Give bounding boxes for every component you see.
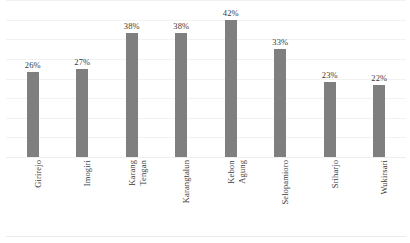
bar-slot: 26%: [8, 0, 58, 157]
category-label: Imogiri: [82, 160, 93, 186]
bar-value-label: 23%: [322, 70, 338, 80]
category-label-line: Wukirsari: [379, 160, 390, 195]
category-label-line: Selopamioro: [280, 160, 291, 205]
category-label-line: Agung: [236, 160, 247, 184]
bar-value-label: 26%: [25, 60, 41, 70]
bar[interactable]: [27, 72, 39, 157]
bar-value-label: 42%: [223, 8, 239, 18]
category-label-slot: KebonAgung: [206, 158, 256, 243]
category-label-line: Karangtalun: [181, 160, 192, 203]
category-label: Sriharjo: [330, 160, 341, 188]
category-label-slot: Sriharjo: [305, 158, 355, 243]
category-label: Wukirsari: [379, 160, 390, 195]
bar[interactable]: [373, 85, 385, 157]
bar-value-label: 38%: [124, 21, 140, 31]
category-label-slot: Imogiri: [58, 158, 108, 243]
bar[interactable]: [324, 82, 336, 157]
bar-slot: 33%: [256, 0, 306, 157]
bar[interactable]: [126, 33, 138, 157]
category-label-line: Sriharjo: [330, 160, 341, 188]
category-label-line: Kebon: [226, 160, 237, 184]
category-label-line: Imogiri: [82, 160, 93, 186]
bar-slot: 38%: [157, 0, 207, 157]
category-label-slot: KarangTengan: [107, 158, 157, 243]
bar-slot: 22%: [355, 0, 405, 157]
category-axis: GirirejoImogiriKarangTenganKarangtalunKe…: [0, 158, 410, 243]
category-label-line: Tengan: [137, 160, 148, 186]
category-label: KarangTengan: [127, 160, 148, 186]
bar-chart: 26%27%38%38%42%33%23%22% GirirejoImogiri…: [0, 0, 410, 243]
category-label: Selopamioro: [280, 160, 291, 205]
axis-bottom-rule: [6, 236, 406, 237]
bar-value-label: 27%: [74, 57, 90, 67]
category-label: Karangtalun: [181, 160, 192, 203]
category-label: Girirejo: [33, 160, 44, 188]
bar[interactable]: [225, 20, 237, 157]
category-label: KebonAgung: [226, 160, 247, 184]
bar-value-label: 33%: [272, 37, 288, 47]
bar-value-label: 22%: [371, 73, 387, 83]
bar[interactable]: [274, 49, 286, 157]
plot-area: 26%27%38%38%42%33%23%22%: [0, 0, 410, 157]
bar[interactable]: [175, 33, 187, 157]
bar-value-label: 38%: [173, 21, 189, 31]
category-label-slot: Selopamioro: [256, 158, 306, 243]
category-label-slot: Karangtalun: [157, 158, 207, 243]
category-label-line: Karang: [127, 160, 138, 186]
bar[interactable]: [76, 69, 88, 157]
category-label-slot: Wukirsari: [355, 158, 405, 243]
bar-slot: 42%: [206, 0, 256, 157]
category-label-line: Girirejo: [33, 160, 44, 188]
bar-slot: 38%: [107, 0, 157, 157]
category-label-slot: Girirejo: [8, 158, 58, 243]
bar-slot: 27%: [58, 0, 108, 157]
bar-slot: 23%: [305, 0, 355, 157]
